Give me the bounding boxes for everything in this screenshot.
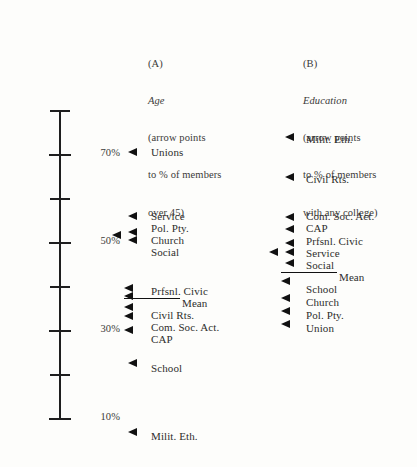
axis-tick-label-30: 30% xyxy=(82,323,120,334)
marker-arrow xyxy=(285,259,294,267)
marker-label: Com. Soc. Act. xyxy=(151,322,219,333)
marker-label: Civil Rts. xyxy=(306,174,349,185)
axis-tick-30 xyxy=(49,330,71,332)
marker-arrow xyxy=(128,228,137,236)
marker-arrow xyxy=(124,284,133,292)
panel-a-variable: Age xyxy=(148,95,222,107)
panel-b-variable: Education xyxy=(303,95,378,107)
marker-label: Union xyxy=(306,323,334,334)
marker-label: Service xyxy=(151,211,185,222)
marker-arrow xyxy=(124,312,133,320)
marker-label: CAP xyxy=(151,334,173,345)
marker-label: Milit. Eth. xyxy=(151,431,198,442)
marker-label: School xyxy=(151,363,182,374)
marker-label: Service xyxy=(306,248,340,259)
marker-label: Civil Rts. xyxy=(151,310,194,321)
percentage-axis: 70%50%30%10% xyxy=(0,0,120,467)
marker-arrow xyxy=(128,148,137,156)
axis-tick-60 xyxy=(50,198,70,200)
marker-label: Com. Soc. Act. xyxy=(306,211,374,222)
axis-tick-40 xyxy=(50,286,70,288)
axis-tick-80 xyxy=(50,110,70,112)
marker-arrow xyxy=(112,231,121,239)
axis-tick-10 xyxy=(49,418,71,420)
marker-arrow xyxy=(128,236,137,244)
axis-tick-20 xyxy=(50,374,70,376)
panel-a-key: (A) xyxy=(148,58,222,70)
marker-arrow xyxy=(285,239,294,247)
marker-arrow xyxy=(128,359,137,367)
marker-arrow xyxy=(281,320,290,328)
panel-b-key: (B) xyxy=(303,58,378,70)
marker-label: Social xyxy=(151,247,179,258)
marker-label: Unions xyxy=(151,147,183,158)
mean-leader-line xyxy=(124,298,180,299)
marker-label: Pol. Pty. xyxy=(151,223,189,234)
marker-label: Prfsnl. Civic xyxy=(306,236,363,247)
marker-label: Pol. Pty. xyxy=(306,310,344,321)
marker-arrow xyxy=(285,248,294,256)
marker-label: Church xyxy=(151,235,184,246)
axis-tick-70 xyxy=(49,154,71,156)
axis-tick-label-70: 70% xyxy=(82,147,120,158)
mean-leader-line xyxy=(281,272,337,273)
axis-tick-label-10: 10% xyxy=(82,411,120,422)
marker-label: Milit. Eth. xyxy=(306,134,353,145)
marker-label: Social xyxy=(306,260,334,271)
marker-arrow xyxy=(281,277,290,285)
dot-plot-figure: 70%50%30%10% (A) Age (arrow points to % … xyxy=(0,0,417,467)
marker-label: CAP xyxy=(306,223,328,234)
panel-a-note-2: to % of members xyxy=(148,169,222,181)
marker-arrow xyxy=(269,248,278,256)
marker-arrow xyxy=(285,173,294,181)
marker-arrow xyxy=(285,213,294,221)
marker-label: Prfsnl. Civic xyxy=(151,286,208,297)
panel-a-note-1: (arrow points xyxy=(148,132,222,144)
marker-arrow xyxy=(124,326,133,334)
marker-arrow xyxy=(128,428,137,436)
marker-label: School xyxy=(306,284,337,295)
marker-label: Church xyxy=(306,297,339,308)
axis-tick-50 xyxy=(49,242,71,244)
marker-arrow xyxy=(128,212,137,220)
marker-arrow xyxy=(281,307,290,315)
marker-label: Mean xyxy=(182,298,207,309)
marker-arrow xyxy=(285,225,294,233)
marker-label: Mean xyxy=(339,272,364,283)
marker-arrow xyxy=(124,303,133,311)
marker-arrow xyxy=(285,133,294,141)
marker-arrow xyxy=(281,294,290,302)
